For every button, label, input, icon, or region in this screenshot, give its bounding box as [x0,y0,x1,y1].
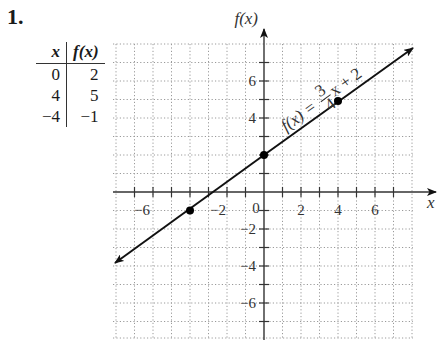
coordinate-graph: −6 −2 0 2 4 6 6 4 −2 −4 −6 f(x) x f(x) =… [0,0,446,342]
y-tick-label: 4 [249,110,257,126]
data-point [260,151,268,159]
x-tick-label: 0 [252,200,260,216]
y-tick-label: −2 [240,221,256,237]
y-tick-label: −6 [240,295,256,311]
x-tick-label: −2 [210,202,226,218]
y-axis-label: f(x) [234,9,258,28]
x-tick-label: −6 [134,202,150,218]
equation-rhs: x + 2 [326,64,366,100]
data-point [186,207,194,215]
y-tick-label: 6 [249,73,257,89]
equation-label: f(x) = 3 4 x + 2 [272,57,370,142]
grid [113,44,413,338]
x-tick-label: 6 [371,202,379,218]
x-tick-label: 4 [334,202,342,218]
y-tick-label: −4 [240,258,256,274]
x-axis-label: x [426,193,435,212]
x-tick-label: 2 [297,202,305,218]
